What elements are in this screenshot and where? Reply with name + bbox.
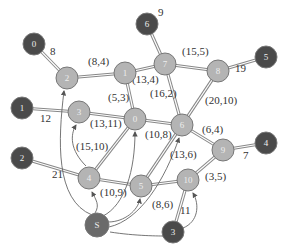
edge-label: (13,11) xyxy=(90,117,122,130)
edge-label: 12 xyxy=(40,112,51,124)
node-label: 4 xyxy=(264,138,269,148)
node-label: 10 xyxy=(184,175,194,185)
diagram-svg: 8(8,4)9(13,4)(15,5)19(5,3)(16,2)(20,10)1… xyxy=(0,0,290,251)
node-n3: 3 xyxy=(68,101,90,123)
node-label: 4 xyxy=(87,173,92,183)
node-n1: 1 xyxy=(114,62,136,84)
edge-label: (15,10) xyxy=(76,140,108,153)
edge-label: (10,9) xyxy=(100,186,127,199)
node-label: 1 xyxy=(20,103,25,113)
node-n7: 7 xyxy=(154,53,176,75)
node-n2: 2 xyxy=(56,67,78,89)
edge-label: 21 xyxy=(52,168,63,180)
node-label: 5 xyxy=(264,52,269,62)
node-n6: 6 xyxy=(171,114,193,136)
edge-group xyxy=(22,24,266,232)
edge-label: (20,10) xyxy=(205,94,237,107)
edge-label: (13,6) xyxy=(170,148,197,161)
edge-label: 7 xyxy=(243,149,249,161)
edge-label: (8,4) xyxy=(88,55,109,68)
node-label: 6 xyxy=(180,120,185,130)
node-label: 7 xyxy=(163,59,168,69)
node-d2: 2 xyxy=(11,147,33,169)
node-label: 6 xyxy=(145,19,150,29)
node-n10: 10 xyxy=(177,169,199,191)
edge-label: (16,2) xyxy=(150,87,177,100)
edge-label: (10,8) xyxy=(145,128,172,141)
node-n0: 0 xyxy=(124,108,146,130)
node-d3: 3 xyxy=(162,221,184,243)
arrow-s-to-5 xyxy=(108,199,140,222)
node-n8: 8 xyxy=(207,60,229,82)
edge-label: (3,5) xyxy=(205,170,226,183)
flow-network-diagram: 8(8,4)9(13,4)(15,5)19(5,3)(16,2)(20,10)1… xyxy=(0,0,290,251)
node-label: 8 xyxy=(216,66,221,76)
node-d6: 6 xyxy=(136,13,158,35)
node-d1: 1 xyxy=(11,97,33,119)
node-label: 2 xyxy=(65,73,70,83)
node-label: 3 xyxy=(171,227,176,237)
edge-label: (5,3) xyxy=(108,91,129,104)
node-label: 5 xyxy=(139,181,144,191)
edge-label: 19 xyxy=(235,62,247,74)
node-d5: 5 xyxy=(255,46,277,68)
edge-label: 11 xyxy=(180,204,191,216)
node-d0: 0 xyxy=(23,33,45,55)
node-d4: 4 xyxy=(255,132,277,154)
arrow-s-to-4 xyxy=(92,192,97,213)
node-n4: 4 xyxy=(78,167,100,189)
node-label: 9 xyxy=(221,145,226,155)
arrow-s-to-3 xyxy=(110,232,166,236)
edge-label: (6,4) xyxy=(202,123,223,136)
edge-label: (15,5) xyxy=(182,45,209,58)
node-label: 0 xyxy=(133,114,138,124)
node-S: S xyxy=(85,213,109,237)
edge-label: 8 xyxy=(50,45,56,57)
node-n9: 9 xyxy=(212,139,234,161)
node-label: 2 xyxy=(20,153,25,163)
node-n5: 5 xyxy=(130,175,152,197)
edge-label: (8,6) xyxy=(152,198,173,211)
node-label: S xyxy=(94,220,99,230)
edge-label: 9 xyxy=(158,6,164,18)
node-label: 3 xyxy=(77,107,82,117)
node-label: 0 xyxy=(32,39,37,49)
node-label: 1 xyxy=(123,68,128,78)
